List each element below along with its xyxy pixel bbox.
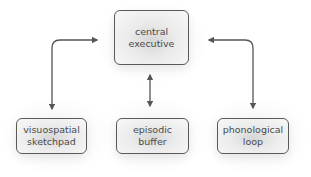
episodic-buffer-box: episodic buffer [116,118,189,154]
central-executive-label: central executive [129,26,175,50]
working-memory-diagram: central executive visuospatial sketchpad… [0,0,311,177]
visuospatial-sketchpad-label: visuospatial sketchpad [23,124,80,148]
arrow-central-visuospatial [52,40,97,109]
visuospatial-sketchpad-box: visuospatial sketchpad [16,118,87,154]
phonological-loop-box: phonological loop [217,118,289,154]
episodic-buffer-label: episodic buffer [133,124,172,148]
central-executive-box: central executive [114,10,189,65]
phonological-loop-label: phonological loop [223,124,284,148]
arrow-central-phonological [209,40,253,108]
